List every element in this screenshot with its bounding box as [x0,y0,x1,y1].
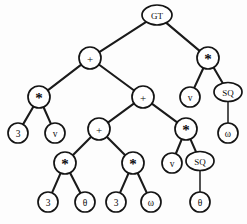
node-label: ω [225,129,231,139]
node-label: + [87,53,93,65]
tree-edge [52,173,61,193]
node-label: * [35,90,43,106]
tree-edge [194,68,203,88]
node-label: θ [198,198,203,208]
tree-node-mul[interactable]: * [28,86,50,108]
node-label: 3 [16,129,21,139]
node-label: SQ [194,157,206,167]
node-label: SQ [222,88,234,98]
tree-edge [176,139,182,154]
node-label: * [182,122,190,138]
tree-edge [99,65,134,91]
tree-edge [190,139,196,152]
tree-edge [120,173,129,193]
tree-node-v[interactable]: v [45,123,65,143]
tree-edge [99,22,146,52]
tree-edge [73,137,91,155]
node-label: v [53,129,58,139]
tree-node-v[interactable]: v [162,153,182,173]
tree-node-add[interactable]: + [88,118,110,140]
tree-node-θ[interactable]: θ [190,192,210,212]
tree-node-mul[interactable]: * [122,152,144,174]
tree-edge [23,107,33,125]
node-label: * [204,51,212,67]
node-label: * [61,156,69,172]
tree-node-mul[interactable]: * [175,118,197,140]
tree-node-ω[interactable]: ω [218,123,238,143]
node-label: * [129,156,137,172]
tree-node-mul[interactable]: * [54,152,76,174]
tree-edge [214,67,223,83]
tree-edge [108,103,134,122]
tree-edge [152,104,177,123]
tree-edge [43,107,50,124]
tree-edge [166,23,199,51]
tree-node-ω[interactable]: ω [141,192,161,212]
tree-edge [70,173,80,193]
tree-node-3[interactable]: 3 [106,192,126,212]
tree-node-GT[interactable]: GT [142,5,172,25]
tree-edge [138,173,147,193]
tree-edge [107,137,125,155]
tree-node-3[interactable]: 3 [38,192,58,212]
node-label: v [170,159,175,169]
node-label: 3 [114,198,119,208]
tree-edge [48,65,82,91]
tree-canvas: GT+**+vSQ3v+*ω**vSQ3θ3ωθ [0,0,247,224]
node-label: GT [151,11,163,21]
tree-node-SQ[interactable]: SQ [214,83,242,102]
node-label: ω [148,198,154,208]
node-label: θ [83,198,88,208]
tree-node-3[interactable]: 3 [8,123,28,143]
tree-node-add[interactable]: + [132,86,154,108]
node-label: + [140,92,146,104]
tree-node-v[interactable]: v [180,87,200,107]
tree-node-θ[interactable]: θ [75,192,95,212]
tree-node-mul[interactable]: * [197,47,219,69]
tree-node-add[interactable]: + [79,47,101,69]
expression-tree-figure: GT+**+vSQ3v+*ω**vSQ3θ3ωθ [0,0,247,224]
node-label: + [96,124,102,136]
node-label: 3 [46,198,51,208]
tree-node-SQ[interactable]: SQ [186,152,214,171]
node-label: v [188,93,193,103]
